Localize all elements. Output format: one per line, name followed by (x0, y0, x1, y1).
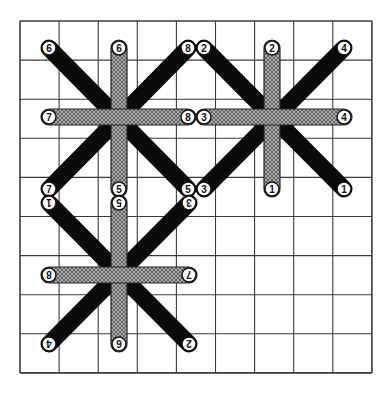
stars: 668787552243431115387462 (41, 40, 352, 352)
stitch-point-label: 1 (46, 197, 52, 208)
stitch-point-label: 4 (341, 112, 347, 123)
star-top-right: 22434311 (196, 40, 352, 197)
stitch-point-label: 2 (269, 43, 275, 54)
stitch-point-label: 5 (116, 184, 122, 195)
star-bottom-left: 15387462 (41, 195, 197, 352)
stitch-point-label: 6 (116, 338, 122, 349)
stitch-point-label: 8 (46, 269, 52, 280)
stitch-point-top-right: 8 (181, 41, 195, 55)
hatched-horizontal-stitch (41, 267, 197, 283)
stitch-point-label: 4 (341, 43, 347, 54)
stitch-point-label: 5 (185, 184, 191, 195)
stitch-point-label: 1 (341, 184, 347, 195)
stitch-point-label: 2 (201, 43, 207, 54)
stitch-point-middle-right: 4 (337, 110, 351, 124)
stitch-point-top-right: 3 (182, 196, 196, 210)
stitch-point-top-left: 6 (42, 41, 56, 55)
stitch-point-bottom-right: 2 (182, 337, 196, 351)
stitch-point-middle-left: 8 (42, 268, 56, 282)
stitch-point-label: 5 (116, 197, 122, 208)
stitch-point-label: 4 (46, 338, 52, 349)
stitch-point-bottom-right: 5 (181, 182, 195, 196)
stitch-point-bottom-left: 4 (42, 337, 56, 351)
stitch-point-label: 2 (186, 338, 192, 349)
stitch-point-bottom-left: 7 (42, 182, 56, 196)
stitch-point-label: 6 (116, 43, 122, 54)
diagram-canvas: 668787552243431115387462 (0, 0, 389, 397)
stitch-point-bottom-left: 3 (197, 182, 211, 196)
hatched-horizontal-stitch (41, 109, 196, 125)
stitch-point-bottom-middle: 6 (112, 337, 126, 351)
stitch-point-label: 7 (46, 184, 52, 195)
stitch-point-label: 8 (185, 43, 191, 54)
stitch-point-middle-left: 3 (197, 110, 211, 124)
stitch-point-top-middle: 6 (112, 41, 126, 55)
hatched-horizontal-stitch (196, 109, 352, 125)
stitch-point-label: 3 (201, 112, 207, 123)
stitch-point-label: 3 (186, 197, 192, 208)
stitch-point-bottom-right: 1 (337, 182, 351, 196)
stitch-point-label: 7 (186, 269, 192, 280)
stitch-point-label: 7 (46, 112, 52, 123)
stitch-point-label: 3 (201, 184, 207, 195)
star-top-left: 66878755 (41, 40, 196, 197)
stitch-point-bottom-middle: 5 (112, 182, 126, 196)
stitch-point-top-left: 1 (42, 196, 56, 210)
stitch-point-label: 8 (185, 112, 191, 123)
stitch-point-middle-left: 7 (42, 110, 56, 124)
stitch-point-middle-right: 7 (182, 268, 196, 282)
stitch-point-middle-right: 8 (181, 110, 195, 124)
stitch-point-top-middle: 5 (112, 196, 126, 210)
stitch-point-label: 1 (269, 184, 275, 195)
stitch-point-bottom-middle: 1 (265, 182, 279, 196)
stitch-point-label: 6 (46, 43, 52, 54)
stitch-point-top-right: 4 (337, 41, 351, 55)
stitch-diagram: 668787552243431115387462 (0, 0, 389, 397)
stitch-point-top-left: 2 (197, 41, 211, 55)
stitch-point-top-middle: 2 (265, 41, 279, 55)
